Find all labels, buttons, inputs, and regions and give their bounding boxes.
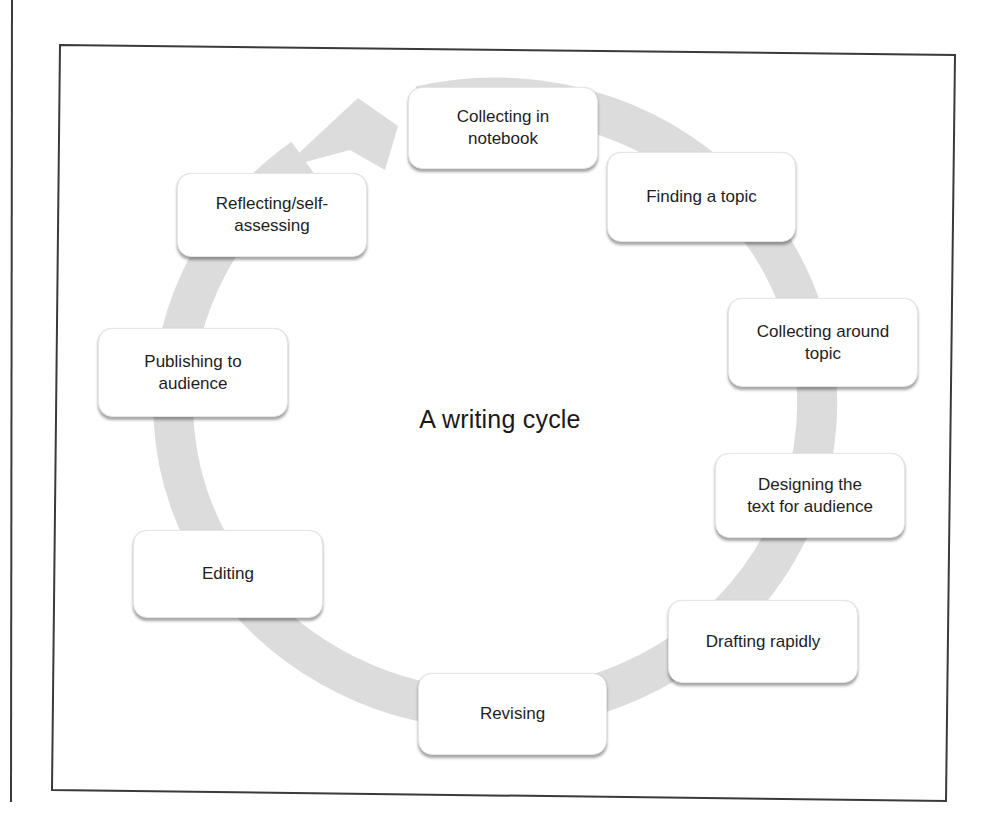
page-edge-line — [11, 0, 12, 802]
cycle-node-finding-a-topic: Finding a topic — [607, 152, 796, 242]
cycle-arrowhead-icon — [283, 98, 398, 170]
node-label: Drafting rapidly — [706, 631, 820, 653]
node-label: Collecting in notebook — [457, 106, 550, 150]
cycle-node-collecting-around-topic: Collecting around topic — [728, 298, 918, 387]
writing-cycle-diagram: Collecting in notebook Finding a topic C… — [0, 0, 1008, 831]
node-label: Finding a topic — [646, 186, 757, 208]
cycle-node-designing-text: Designing the text for audience — [715, 453, 905, 538]
cycle-node-drafting-rapidly: Drafting rapidly — [668, 600, 858, 683]
node-label: Editing — [202, 563, 254, 585]
cycle-node-collecting-in-notebook: Collecting in notebook — [408, 87, 598, 169]
cycle-node-publishing-to-audience: Publishing to audience — [98, 328, 288, 417]
node-label: Designing the text for audience — [747, 474, 873, 518]
node-label: Reflecting/self- assessing — [216, 193, 328, 237]
diagram-title: A writing cycle — [360, 405, 640, 434]
node-label: Revising — [480, 703, 545, 725]
cycle-node-revising: Revising — [418, 673, 607, 755]
node-label: Publishing to audience — [144, 351, 241, 395]
node-label: Collecting around topic — [757, 321, 889, 365]
cycle-node-editing: Editing — [133, 530, 323, 618]
cycle-node-reflecting-self-assessing: Reflecting/self- assessing — [177, 173, 367, 257]
